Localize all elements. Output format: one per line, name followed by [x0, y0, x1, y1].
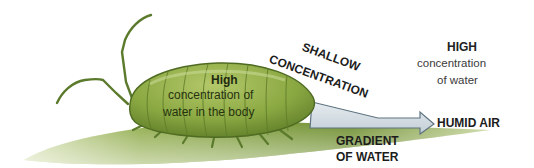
body-label-line2: water in the body — [163, 105, 254, 119]
gradient-label-line2: OF WATER — [336, 150, 398, 164]
air-label-line3: of water — [437, 74, 478, 86]
body-label-high: High — [211, 73, 238, 87]
humid-air-label: HUMID AIR — [437, 116, 500, 130]
body-label-line1: concentration of — [168, 88, 253, 102]
air-label-high: HIGH — [447, 40, 477, 54]
air-label-line2: concentration — [417, 57, 486, 69]
gradient-label-line1: GRADIENT — [336, 134, 399, 148]
